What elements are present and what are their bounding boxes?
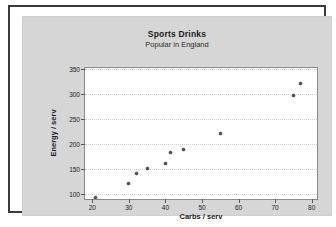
data-point <box>164 162 167 165</box>
chart-title: Sports Drinks <box>23 29 331 39</box>
gridline <box>85 69 317 70</box>
x-tick-label: 80 <box>308 204 315 211</box>
y-tick <box>81 119 85 120</box>
data-point <box>135 172 138 175</box>
y-tick-label: 350 <box>69 65 80 72</box>
x-tick-label: 30 <box>125 204 132 211</box>
y-axis-title: Energy / serv <box>49 109 58 156</box>
data-point <box>219 132 222 135</box>
x-tick <box>312 199 313 203</box>
chart-subtitle: Popular in England <box>23 40 331 50</box>
y-tick <box>81 169 85 170</box>
figure-panel: Sports Drinks Popular in England 1001502… <box>22 16 332 216</box>
chart-screenshot: Sports Drinks Popular in England 1001502… <box>0 0 336 227</box>
gridline <box>85 194 317 195</box>
figure-frame: Sports Drinks Popular in England 1001502… <box>8 5 326 213</box>
data-point <box>292 94 295 97</box>
x-tick-label: 60 <box>235 204 242 211</box>
y-tick <box>81 144 85 145</box>
gridline <box>85 144 317 145</box>
y-tick <box>81 69 85 70</box>
x-tick <box>92 199 93 203</box>
x-tick <box>202 199 203 203</box>
y-tick-label: 150 <box>69 165 80 172</box>
x-tick <box>275 199 276 203</box>
data-point <box>182 148 185 151</box>
x-tick-label: 50 <box>198 204 205 211</box>
data-point <box>299 82 302 85</box>
gridline <box>85 119 317 120</box>
y-tick-label: 250 <box>69 115 80 122</box>
data-point <box>169 151 172 154</box>
x-tick-label: 20 <box>89 204 96 211</box>
data-point <box>127 182 130 185</box>
y-tick-label: 100 <box>69 190 80 197</box>
x-tick-label: 70 <box>272 204 279 211</box>
data-point <box>146 167 149 170</box>
plot-inner <box>85 68 317 199</box>
gridline <box>85 169 317 170</box>
y-tick <box>81 194 85 195</box>
x-tick <box>239 199 240 203</box>
x-axis-title: Carbs / serv <box>84 212 318 221</box>
plot-area: 100150200250300350 20304050607080 <box>84 67 318 200</box>
gridline <box>85 94 317 95</box>
x-tick-label: 40 <box>162 204 169 211</box>
y-tick-label: 200 <box>69 140 80 147</box>
y-tick <box>81 94 85 95</box>
title-block: Sports Drinks Popular in England <box>23 29 331 50</box>
data-point <box>94 196 97 199</box>
x-tick <box>165 199 166 203</box>
x-tick <box>129 199 130 203</box>
y-tick-label: 300 <box>69 90 80 97</box>
